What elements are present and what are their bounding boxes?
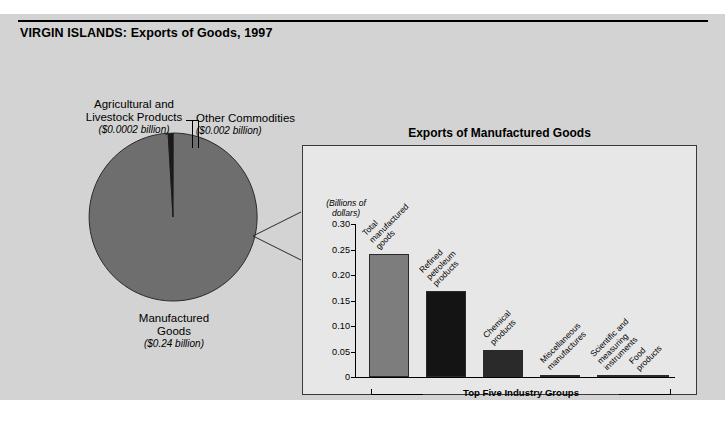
x-axis-line: [355, 377, 675, 378]
bar-label-1: Refinedpetroleumproducts: [418, 242, 464, 288]
bar-chart-title: Exports of Manufactured Goods: [302, 126, 697, 140]
y-axis-tick-mark: [351, 377, 355, 378]
bracket-label: Top Five Industry Groups: [423, 387, 619, 398]
bar-3: [540, 375, 580, 377]
y-axis-tick-label: 0.30: [332, 219, 350, 229]
pie-label-manufactured-goods: Manufactured Goods ($0.24 billion): [110, 312, 238, 350]
y-axis-tick-mark: [351, 275, 355, 276]
page-title-country: VIRGIN ISLANDS: [20, 26, 123, 40]
y-axis-units-line2: dollars): [332, 208, 360, 218]
bar-chart-plot-area: 00.050.100.150.200.250.30 Totalmanufactu…: [355, 224, 675, 377]
y-axis-tick-mark: [351, 326, 355, 327]
pie-label-agricultural-line1: Agricultural and: [94, 98, 174, 110]
y-axis-tick-mark: [351, 224, 355, 225]
bar-1: [426, 291, 466, 377]
industry-groups-bracket: Top Five Industry Groups: [371, 387, 671, 401]
bar-chart-panel: (Billions of dollars) 00.050.100.150.200…: [302, 145, 697, 395]
y-axis-tick-mark: [351, 301, 355, 302]
bar-label-3: Miscellaneousmanufactures: [539, 322, 590, 373]
bracket-tick-right: [670, 389, 671, 395]
bracket-line-right: [619, 394, 671, 395]
y-axis-units-label: (Billions of dollars): [309, 198, 383, 218]
bar-2: [483, 350, 523, 377]
pie-label-other-line1: Other Commodities: [196, 112, 295, 124]
bar-0: [369, 254, 409, 377]
pie-label-manufactured-amount: ($0.24 billion): [110, 338, 238, 350]
page-title-subject: Exports of Goods, 1997: [131, 26, 273, 40]
y-axis-tick-mark: [351, 250, 355, 251]
title-divider-rule: [18, 20, 708, 22]
y-axis-tick-mark: [351, 352, 355, 353]
y-axis-tick-label: 0.25: [332, 245, 350, 255]
pie-label-agricultural: Agricultural and Livestock Products ($0.…: [72, 98, 196, 136]
y-axis-tick-label: 0.10: [332, 321, 350, 331]
y-axis-tick-label: 0.20: [332, 270, 350, 280]
y-axis-units-line1: (Billions of: [326, 198, 366, 208]
pie-label-manufactured-line1: Manufactured: [139, 312, 209, 324]
pie-chart: [88, 132, 258, 302]
y-axis-tick-label: 0.05: [332, 347, 350, 357]
y-axis-tick-label: 0.15: [332, 296, 350, 306]
y-axis-line: [355, 224, 356, 377]
y-axis-tick-label: 0: [345, 372, 350, 382]
bar-label-2: Chemicalproducts: [482, 309, 520, 347]
bracket-line-left: [371, 394, 423, 395]
figure-panel: VIRGIN ISLANDS: Exports of Goods, 1997 A…: [0, 14, 725, 400]
page-title: VIRGIN ISLANDS: Exports of Goods, 1997: [20, 26, 272, 40]
pie-label-agricultural-amount: ($0.0002 billion): [72, 124, 196, 136]
pie-chart-svg: [88, 132, 258, 302]
pie-label-agricultural-line2: Livestock Products: [86, 111, 183, 123]
page-title-separator: :: [123, 26, 131, 40]
bar-5: [629, 375, 669, 377]
pie-label-manufactured-line2: Goods: [157, 325, 191, 337]
